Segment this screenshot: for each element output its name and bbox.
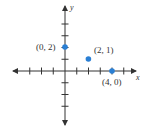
x-axis-label: x [135, 73, 140, 82]
coordinate-plane: x y (0, 2) (2, 1) (4, 0) [0, 0, 141, 132]
point-label-4-0: (4, 0) [102, 77, 122, 87]
point-4-0 [109, 68, 115, 74]
point-label-0-2: (0, 2) [36, 42, 56, 52]
point-0-2 [62, 44, 68, 50]
y-axis: y [62, 3, 75, 125]
point-label-2-1: (2, 1) [94, 45, 114, 55]
y-axis-label: y [69, 3, 74, 12]
point-2-1 [86, 56, 92, 62]
